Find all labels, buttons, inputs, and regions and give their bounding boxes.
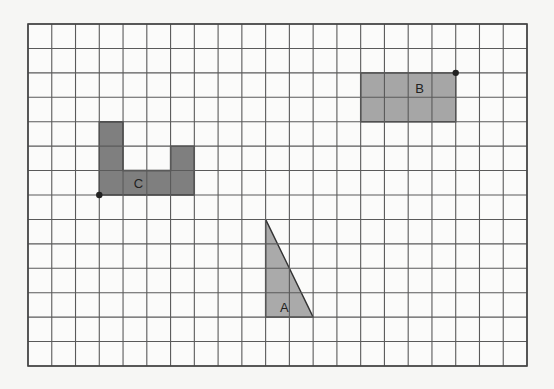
reference-dot-c [96, 192, 102, 198]
shape-label-b: B [415, 81, 424, 96]
shape-label-a: A [280, 300, 289, 315]
transformation-grid-diagram: CBA [0, 0, 554, 389]
reference-dot-b [453, 70, 459, 76]
shape-label-c: C [134, 176, 143, 191]
grid-canvas: CBA [0, 0, 554, 389]
